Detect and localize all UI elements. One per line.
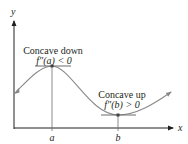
point-b-marker [117, 114, 120, 117]
y-axis-label: y [10, 6, 16, 17]
x-axis-label: x [177, 122, 183, 133]
concavity-diagram: y x a b Concave down f″(a) < 0 Concave u… [0, 0, 188, 144]
concave-down-condition: f″(a) < 0 [36, 55, 71, 67]
tick-label-a: a [50, 132, 55, 143]
function-curve [16, 66, 171, 115]
concave-up-condition: f″(b) > 0 [104, 99, 139, 111]
tick-label-b: b [116, 132, 121, 143]
